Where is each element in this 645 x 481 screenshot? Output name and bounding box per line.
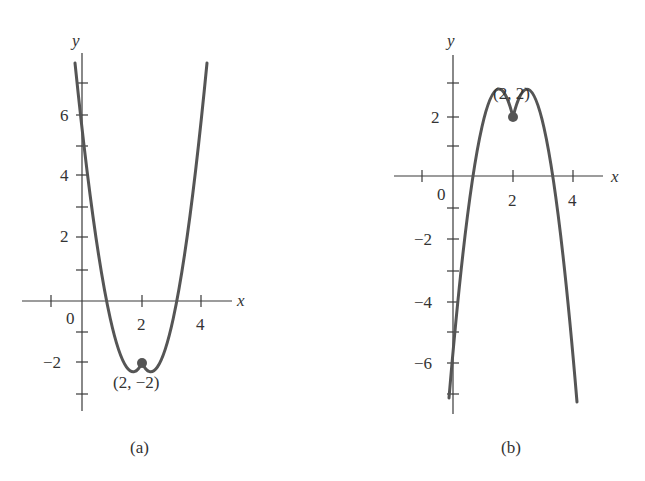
vertex-point-b: [508, 112, 518, 122]
y-tick-label-4-a: 4: [60, 166, 69, 185]
y-tick-label-2-a: 2: [60, 227, 69, 246]
y-tick-label-neg2-a: −2: [43, 353, 61, 372]
y-axis-label-b: y: [445, 31, 455, 50]
x-tick-label-2-b: 2: [508, 191, 517, 210]
y-tick-label-2-b: 2: [431, 108, 440, 127]
y-axis-label-a: y: [70, 31, 80, 50]
y-tick-label-6-a: 6: [60, 106, 69, 125]
caption-a: (a): [130, 438, 149, 457]
y-tick-label-neg4-b: −4: [414, 293, 433, 312]
x-tick-label-4-b: 4: [568, 191, 577, 210]
x-tick-label-2-a: 2: [137, 315, 146, 334]
vertex-point-a: [137, 358, 147, 368]
y-tick-label-neg6-b: −6: [414, 354, 432, 373]
x-tick-label-0-a: 0: [66, 309, 75, 328]
panel-b: y x 0 2 4 2 −2 −4 −6 (2, 2) (b): [394, 31, 619, 457]
panel-a: y x 0 2 4 6 4 2 −2 (2, −2) (a): [22, 31, 245, 457]
figure: y x 0 2 4 6 4 2 −2 (2, −2) (a): [0, 0, 645, 481]
parabola-b: [449, 89, 577, 402]
vertex-label-b: (2, 2): [493, 84, 530, 103]
x-tick-label-4-a: 4: [196, 315, 205, 334]
y-tick-label-neg2-b: −2: [414, 230, 432, 249]
vertex-label-a: (2, −2): [113, 373, 159, 392]
caption-b: (b): [501, 438, 521, 457]
x-axis-label-a: x: [236, 291, 245, 310]
x-tick-label-0-b: 0: [437, 185, 446, 204]
x-axis-label-b: x: [610, 167, 619, 186]
